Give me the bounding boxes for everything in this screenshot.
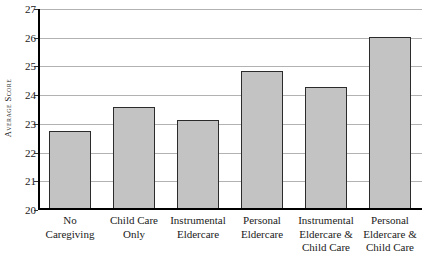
x-axis-label-line: Eldercare <box>166 228 230 242</box>
x-axis-label-line: Instrumental <box>294 214 358 228</box>
y-axis-line <box>38 9 40 210</box>
plot-area <box>38 9 422 210</box>
x-axis-category-label: PersonalEldercare <box>230 214 294 241</box>
x-axis-label-line: Eldercare <box>230 228 294 242</box>
x-axis-label-line: Eldercare & <box>294 228 358 242</box>
x-axis-label-line: Child Care <box>358 241 422 255</box>
x-axis-label-line: Personal <box>230 214 294 228</box>
y-axis-tick-labels: 2021222324252627 <box>14 0 36 215</box>
x-axis-label-line: Personal <box>358 214 422 228</box>
x-axis-label-line: Child Care <box>102 214 166 228</box>
bar-chart: Average Score 2021222324252627 NoCaregiv… <box>0 0 429 270</box>
x-axis-label-line: Child Care <box>294 241 358 255</box>
x-axis-line <box>38 208 422 210</box>
bar <box>305 87 347 209</box>
x-axis-category-labels: NoCaregivingChild CareOnlyInstrumentalEl… <box>38 214 422 268</box>
y-axis-title-text: Average Score <box>3 78 13 137</box>
bar <box>369 37 411 209</box>
x-axis-category-label: Child CareOnly <box>102 214 166 241</box>
bar <box>113 107 155 209</box>
x-axis-label-line: Only <box>102 228 166 242</box>
x-axis-category-label: InstrumentalEldercare &Child Care <box>294 214 358 255</box>
x-axis-label-line: Eldercare & <box>358 228 422 242</box>
bar <box>177 120 219 209</box>
bars <box>38 9 422 210</box>
x-axis-label-line: No <box>38 214 102 228</box>
x-axis-label-line: Instrumental <box>166 214 230 228</box>
x-axis-category-label: InstrumentalEldercare <box>166 214 230 241</box>
bar <box>49 131 91 209</box>
x-axis-category-label: PersonalEldercare &Child Care <box>358 214 422 255</box>
x-axis-category-label: NoCaregiving <box>38 214 102 241</box>
y-axis-tick <box>34 210 38 211</box>
bar <box>241 71 283 209</box>
x-axis-label-line: Caregiving <box>38 228 102 242</box>
